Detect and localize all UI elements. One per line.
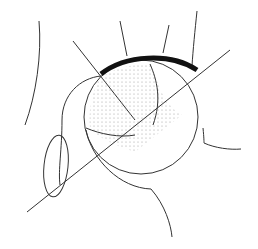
upper-line-1 xyxy=(120,21,127,56)
stippled-region xyxy=(89,64,182,152)
upper-line-2 xyxy=(163,25,169,53)
hip-joint-diagram xyxy=(0,0,258,249)
ilium-outline xyxy=(25,21,40,125)
upper-line-3 xyxy=(192,11,197,66)
femoral-shaft-right xyxy=(203,128,241,149)
